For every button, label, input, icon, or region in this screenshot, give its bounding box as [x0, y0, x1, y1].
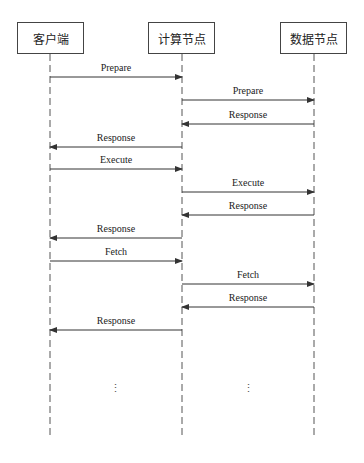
message-label: Response [56, 315, 176, 327]
message-label: Fetch [56, 246, 176, 258]
message-label: Execute [56, 154, 176, 166]
participant-label: 计算节点 [158, 30, 206, 47]
participant-data-node: 数据节点 [280, 22, 347, 54]
message-label: Fetch [188, 269, 308, 281]
participant-label: 客户端 [33, 30, 69, 47]
message-label: Response [188, 200, 308, 212]
continuation-ellipsis: ⋮ [243, 386, 253, 390]
message-label: Response [188, 292, 308, 304]
message-label: Response [56, 223, 176, 235]
participant-compute-node: 计算节点 [148, 22, 215, 54]
message-label: Response [56, 132, 176, 144]
participant-client: 客户端 [17, 22, 84, 54]
message-label: Response [188, 109, 308, 121]
message-label: Execute [188, 177, 308, 189]
participant-label: 数据节点 [290, 30, 338, 47]
sequence-diagram [0, 0, 364, 463]
message-label: Prepare [188, 85, 308, 97]
message-label: Prepare [56, 62, 176, 74]
continuation-ellipsis: ⋮ [110, 386, 120, 390]
